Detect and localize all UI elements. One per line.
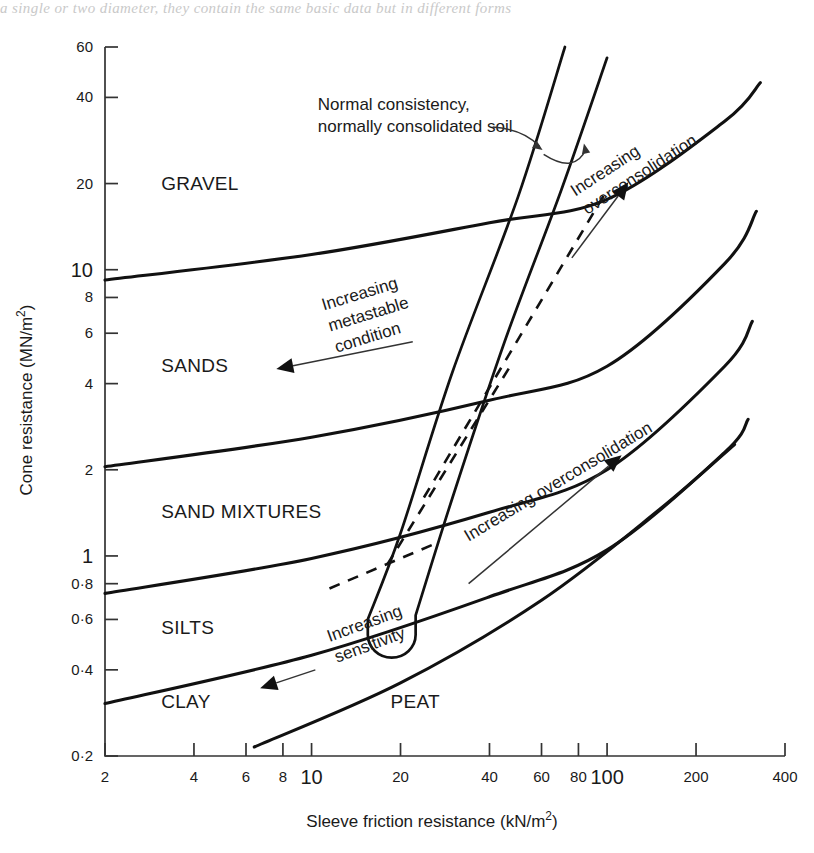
region-label-gravel: GRAVEL xyxy=(161,173,238,194)
arrow-head xyxy=(260,676,278,690)
silts-clay-boundary xyxy=(105,419,748,703)
y-axis-title: Cone resistance (MN/m2) xyxy=(14,305,36,496)
y-tick-label: 6 xyxy=(85,324,93,341)
x-tick-label: 200 xyxy=(684,768,709,785)
increasing-overconsolidation-lower: Increasing overconsolidation xyxy=(461,418,655,545)
arrow-head xyxy=(276,358,294,373)
x-tick-label: 40 xyxy=(481,768,498,785)
x-tick-label: 60 xyxy=(533,768,550,785)
y-tick-label: 0·6 xyxy=(71,610,93,627)
y-tick-label: 0·2 xyxy=(71,747,93,764)
y-tick-label: 2 xyxy=(85,461,93,478)
x-tick-label: 6 xyxy=(242,768,250,785)
region-label-sands: SANDS xyxy=(161,355,228,376)
x-tick-label: 80 xyxy=(570,768,587,785)
y-tick-label: 10 xyxy=(71,259,93,281)
axis-titles-layer: Sleeve friction resistance (kN/m2) Cone … xyxy=(14,305,558,831)
annotation-line: Increasing overconsolidation xyxy=(461,418,655,545)
soil-classification-chart: 60402010864210·80·60·40·2246810204060801… xyxy=(0,0,814,853)
x-tick-label: 4 xyxy=(190,768,198,785)
annotation-line: normally consolidated soil xyxy=(318,117,513,136)
y-tick-label: 1 xyxy=(82,545,93,567)
x-tick-label: 20 xyxy=(392,768,409,785)
y-tick-label: 20 xyxy=(76,175,93,192)
x-tick-label: 100 xyxy=(590,766,623,788)
y-tick-label: 4 xyxy=(85,375,93,392)
y-tick-label: 0·8 xyxy=(71,575,93,592)
x-tick-label: 400 xyxy=(772,768,797,785)
y-tick-label: 8 xyxy=(85,288,93,305)
annotation-line: Normal consistency, xyxy=(318,95,470,114)
y-tick-label: 0·4 xyxy=(71,661,93,678)
region-label-peat: PEAT xyxy=(391,691,441,712)
x-axis-title: Sleeve friction resistance (kN/m2) xyxy=(306,809,557,831)
increasing-overconsolidation-upper: Increasingoverconsolidation xyxy=(567,112,700,218)
x-tick-label: 10 xyxy=(300,766,322,788)
sensitivity-arrow xyxy=(260,670,315,690)
figure-page: a single or two diameter, they contain t… xyxy=(0,0,814,853)
normal-consistency-note: Normal consistency,normally consolidated… xyxy=(318,95,513,136)
x-tick-label: 8 xyxy=(279,768,287,785)
region-label-silts: SILTS xyxy=(161,617,214,638)
x-tick-label: 2 xyxy=(101,768,109,785)
region-label-clay: CLAY xyxy=(161,691,210,712)
y-tick-label: 60 xyxy=(76,38,93,55)
y-tick-label: 40 xyxy=(76,88,93,105)
region-label-sand-mixtures: SAND MIXTURES xyxy=(161,501,321,522)
arrow-head xyxy=(582,144,590,155)
trend-dashed-upper xyxy=(424,190,607,498)
metastable-loop xyxy=(368,47,607,658)
